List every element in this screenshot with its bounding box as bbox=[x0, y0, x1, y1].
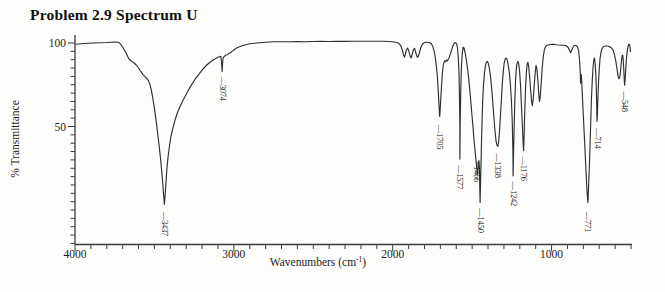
spectrum-svg: 400030002000100010050Wavenumbers (cm-1)%… bbox=[0, 0, 665, 292]
spectrum-curve bbox=[76, 41, 631, 204]
ir-spectrum-figure: Problem 2.9 Spectrum U 40003000200010001… bbox=[0, 0, 665, 292]
y-tick-label: 50 bbox=[55, 121, 67, 133]
x-tick-label: 2000 bbox=[381, 248, 404, 260]
peak-label-1176: —1176 bbox=[519, 156, 529, 181]
x-tick-label: 4000 bbox=[64, 248, 87, 260]
peak-label-3074: —3074 bbox=[218, 75, 228, 101]
peak-label-1577: —1577 bbox=[455, 164, 465, 190]
peak-label-1466: ~1466 bbox=[472, 162, 482, 183]
peak-label-1450: —1450 bbox=[476, 207, 486, 233]
peak-label-3437: —3437 bbox=[160, 211, 170, 237]
peak-label-1242: —1242 bbox=[509, 181, 519, 207]
peak-label-714: —714 bbox=[593, 127, 603, 149]
y-tick-label: 100 bbox=[49, 37, 67, 49]
peak-label-771: —771 bbox=[583, 211, 593, 232]
x-tick-label: 3000 bbox=[222, 248, 245, 260]
x-tick-label: 1000 bbox=[540, 248, 563, 260]
x-axis-title: Wavenumbers (cm-1) bbox=[270, 255, 367, 269]
peak-label-548: —548 bbox=[620, 90, 630, 111]
peak-label-1338: —1338 bbox=[493, 152, 503, 178]
peak-label-1705: —1705 bbox=[435, 124, 445, 150]
y-axis-title: % Transmittance bbox=[9, 100, 21, 178]
